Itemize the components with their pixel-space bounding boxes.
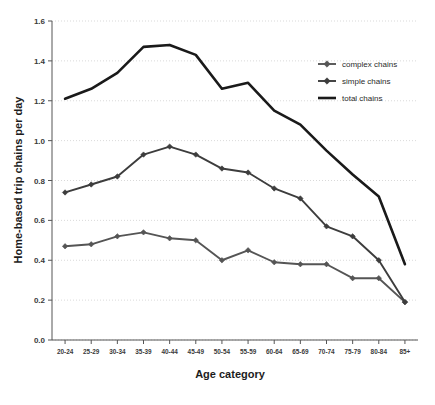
x-tick-label: 75-79 — [344, 348, 361, 355]
y-tick-label: 0.2 — [34, 296, 46, 305]
y-axis-title: Home-based trip chains per day — [12, 96, 24, 264]
x-tick-label: 55-59 — [240, 348, 257, 355]
y-tick-label: 0.6 — [34, 216, 46, 225]
data-point-marker — [141, 230, 146, 235]
data-point-marker — [115, 234, 120, 239]
legend-label-total-chains: total chains — [342, 94, 382, 103]
legend-marker — [324, 61, 330, 67]
data-point-marker — [89, 242, 94, 247]
chart-legend: complex chainssimple chainstotal chains — [318, 60, 397, 103]
data-point-marker — [298, 262, 303, 267]
line-chart: 0.00.20.40.60.81.01.21.41.6 20-2425-2930… — [0, 0, 435, 405]
y-tick-label: 0.4 — [34, 256, 46, 265]
x-tick-label: 80-84 — [371, 348, 388, 355]
x-tick-label: 25-29 — [83, 348, 100, 355]
x-tick-label: 65-69 — [292, 348, 309, 355]
data-point-marker — [167, 236, 172, 241]
legend-marker — [324, 78, 330, 84]
x-axis-title: Age category — [195, 368, 266, 380]
x-tick-label: 50-54 — [214, 348, 231, 355]
data-point-marker — [62, 244, 67, 249]
chart-figure: 0.00.20.40.60.81.01.21.41.6 20-2425-2930… — [0, 0, 435, 405]
x-tick-label: 30-34 — [109, 348, 126, 355]
x-tick-label: 40-44 — [161, 348, 178, 355]
y-tick-label: 0.0 — [34, 336, 46, 345]
x-tick-label: 35-39 — [135, 348, 152, 355]
x-tick-label: 85+ — [400, 348, 411, 355]
y-axis-tick-labels: 0.00.20.40.60.81.01.21.41.6 — [34, 17, 52, 345]
x-tick-label: 60-64 — [266, 348, 283, 355]
x-tick-label: 45-49 — [188, 348, 205, 355]
y-tick-label: 1.2 — [34, 97, 46, 106]
legend-label-complex-chains: complex chains — [342, 60, 397, 69]
data-point-marker — [167, 144, 172, 149]
y-tick-label: 1.0 — [34, 137, 46, 146]
y-tick-label: 1.4 — [34, 57, 46, 66]
data-point-marker — [89, 182, 94, 187]
y-tick-label: 0.8 — [34, 177, 46, 186]
y-tick-label: 1.6 — [34, 17, 46, 26]
x-axis-tick-labels: 20-2425-2930-3435-3940-4445-4950-5455-59… — [57, 340, 411, 355]
data-point-marker — [62, 190, 67, 195]
legend-label-simple-chains: simple chains — [342, 77, 390, 86]
series-line-complex-chains — [65, 232, 405, 302]
x-tick-label: 20-24 — [57, 348, 74, 355]
x-tick-label: 70-74 — [318, 348, 335, 355]
